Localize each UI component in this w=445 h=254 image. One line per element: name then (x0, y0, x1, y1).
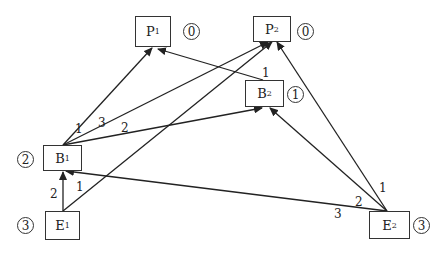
node-label: B (55, 151, 65, 166)
node-level-badge: 0 (297, 23, 314, 40)
edge-weight-label: 1 (379, 182, 387, 194)
node-label: B (257, 86, 267, 101)
node-level-badge: 3 (17, 217, 34, 234)
edge-weight-label: 3 (334, 208, 342, 220)
edge-b1-b2 (63, 108, 262, 145)
node-p2: P2 (253, 16, 291, 42)
node-level-badge: 0 (183, 23, 200, 40)
edge-weight-label: 2 (355, 196, 363, 208)
edge-e2-b2 (270, 108, 387, 211)
node-level-badge: 3 (413, 217, 430, 234)
edge-b1-p2 (63, 42, 268, 145)
edge-weight-label: 3 (98, 117, 106, 129)
edge-weight-label: 1 (262, 67, 270, 79)
edge-weight-label: 1 (75, 123, 83, 135)
node-subscript: 1 (155, 27, 160, 36)
node-subscript: 2 (267, 89, 272, 98)
node-label: P (146, 24, 155, 39)
node-e1: E1 (45, 211, 80, 240)
node-subscript: 1 (65, 154, 70, 163)
edge-weight-label: 1 (76, 181, 84, 193)
node-level-badge: 1 (287, 86, 304, 103)
edge-e2-p2 (277, 42, 387, 211)
node-e2: E2 (369, 211, 410, 239)
edge-b2-p1 (158, 49, 263, 80)
edge-weight-label: 2 (50, 188, 58, 200)
edge-e1-p2 (63, 42, 272, 211)
node-label: P (265, 22, 274, 37)
node-subscript: 1 (65, 221, 70, 230)
node-label: E (55, 218, 65, 233)
node-label: E (382, 218, 392, 233)
node-subscript: 2 (392, 221, 397, 230)
node-p1: P1 (135, 16, 171, 47)
node-b2: B2 (245, 80, 284, 107)
edge-weight-label: 2 (121, 122, 129, 134)
node-b1: B1 (43, 145, 82, 171)
edge-e2-b1 (66, 171, 387, 211)
node-subscript: 2 (274, 25, 279, 34)
node-level-badge: 2 (17, 151, 34, 168)
